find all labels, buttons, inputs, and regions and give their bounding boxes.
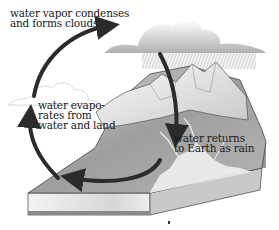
scan-mark xyxy=(168,221,170,224)
label-line: and forms clouds xyxy=(10,18,129,28)
water-cycle-diagram: water vapor condenses and forms clouds w… xyxy=(0,0,279,230)
label-precipitation: water returns to Earth as rain xyxy=(174,133,254,153)
label-line: water and land xyxy=(38,120,115,130)
label-evaporation: water evapo- rates from water and land xyxy=(38,100,115,130)
label-condensation: water vapor condenses and forms clouds xyxy=(10,8,129,28)
label-line: to Earth as rain xyxy=(174,143,254,153)
